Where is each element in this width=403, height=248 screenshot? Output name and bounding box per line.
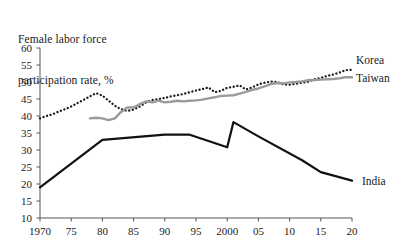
series-line-taiwan: [90, 77, 352, 120]
axis-lines: [40, 48, 352, 218]
y-axis-tick-label: 50: [10, 77, 32, 88]
y-axis-tick-label: 60: [10, 43, 32, 54]
y-axis-tick-label: 45: [10, 94, 32, 105]
y-axis-tick-label: 25: [10, 162, 32, 173]
chart-container: Female labor force participation rate, %…: [0, 0, 403, 248]
series-label-india: India: [362, 175, 386, 187]
y-axis-tick-label: 40: [10, 111, 32, 122]
x-axis-tick-label: 20: [327, 226, 377, 237]
y-axis-tick-label: 10: [10, 213, 32, 224]
series-label-korea: Korea: [356, 54, 384, 66]
series-line-india: [40, 122, 352, 187]
series-label-taiwan: Taiwan: [356, 72, 390, 84]
y-axis-tick-label: 35: [10, 128, 32, 139]
y-axis-tick-label: 55: [10, 60, 32, 71]
y-axis-tick-label: 15: [10, 196, 32, 207]
y-axis-tick-label: 20: [10, 179, 32, 190]
y-axis-tick-label: 30: [10, 145, 32, 156]
series-line-korea: [40, 70, 352, 119]
plot-area: [0, 0, 403, 248]
